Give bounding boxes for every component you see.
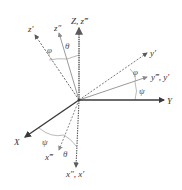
arc-theta-x <box>64 135 77 147</box>
axis-y-triple-prime <box>79 77 147 100</box>
label-x-triple-prime: x‴ <box>44 152 54 162</box>
angle-psi-y: ψ <box>139 86 145 96</box>
angle-phi-y: φ <box>133 67 138 77</box>
axis-X <box>25 100 79 137</box>
axis-x-double-prime <box>76 100 79 167</box>
arc-psi-y <box>135 82 137 100</box>
arc-psi-x <box>39 128 64 136</box>
label-Z: Z, z‴ <box>71 16 89 26</box>
angle-phi-z: φ <box>47 45 52 55</box>
label-z-double-prime: z″ <box>53 23 62 33</box>
axis-labels: Z, z‴ z″ z′ y′ y‴, y′ Y X x‴ x″, x′ <box>13 16 173 179</box>
angle-theta-z: θ <box>65 41 70 51</box>
arc-theta-z <box>67 55 79 59</box>
label-z-prime: z′ <box>27 24 35 34</box>
angle-theta-x: θ <box>63 149 68 159</box>
label-Y: Y <box>167 96 173 106</box>
origin-point <box>78 99 81 102</box>
euler-angle-diagram: Z, z‴ z″ z′ y′ y‴, y′ Y X x‴ x″, x′ φ θ … <box>0 0 182 190</box>
label-y-triple-prime: y‴, y′ <box>150 72 170 82</box>
label-X: X <box>13 137 20 147</box>
axis-z-prime <box>35 35 79 100</box>
label-x-double-prime: x″, x′ <box>65 169 85 179</box>
label-y-prime: y′ <box>149 48 157 58</box>
angle-psi-x: ψ <box>42 137 48 147</box>
angle-arcs <box>39 55 137 147</box>
